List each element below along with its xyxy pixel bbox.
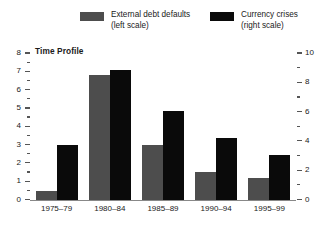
x-axis-tick-label: 1980–84 <box>83 204 136 213</box>
x-axis-tick-label: 1990–94 <box>190 204 243 213</box>
right-axis-tick <box>297 199 302 200</box>
right-axis-tick <box>297 111 302 112</box>
legend-sublabel-left-scale: (left scale) <box>111 21 190 32</box>
right-axis-tick <box>297 82 302 83</box>
left-axis-tick-label: 3 <box>17 141 21 149</box>
right-axis-tick-label: 10 <box>305 49 314 57</box>
bar-currency-crises <box>216 138 237 200</box>
legend-item-external-debt-defaults: External debt defaults (left scale) <box>80 10 190 31</box>
legend-sublabel-right-scale: (right scale) <box>241 21 298 32</box>
right-axis-tick-label: 8 <box>305 78 309 86</box>
bar-group <box>142 44 184 200</box>
x-axis-tick-label: 1995–99 <box>243 204 296 213</box>
left-axis-tick-label: 2 <box>17 159 21 167</box>
bar-group <box>195 44 237 200</box>
right-axis-tick <box>297 140 302 141</box>
bar-group <box>248 44 290 200</box>
bar-external-debt-defaults <box>36 191 57 200</box>
right-axis-tick-label: 6 <box>305 108 309 116</box>
legend-swatch-black-icon <box>210 12 234 21</box>
right-axis-minor-tick <box>297 155 300 156</box>
bar-external-debt-defaults <box>195 172 216 200</box>
bar-currency-crises <box>163 111 184 200</box>
right-axis-minor-tick <box>297 96 300 97</box>
bar-currency-crises <box>57 145 78 200</box>
legend-swatch-gray-icon <box>80 12 104 21</box>
right-axis-tick <box>297 52 302 53</box>
chart-legend: External debt defaults (left scale) Curr… <box>0 10 332 44</box>
bar-external-debt-defaults <box>142 145 163 200</box>
bar-currency-crises <box>269 155 290 200</box>
bar-group <box>89 44 131 200</box>
right-axis-minor-tick <box>297 184 300 185</box>
legend-item-currency-crises: Currency crises (right scale) <box>210 10 298 31</box>
bar-chart: Time Profile 012345678 0246810 1975–7919… <box>0 44 332 232</box>
left-axis-tick-label: 4 <box>17 122 21 130</box>
right-axis-tick-label: 2 <box>305 166 309 174</box>
right-axis-tick-label: 4 <box>305 137 309 145</box>
right-axis-minor-tick <box>297 67 300 68</box>
right-axis-tick-label: 0 <box>305 196 309 204</box>
right-axis-tick <box>297 170 302 171</box>
legend-label-external-debt-defaults: External debt defaults <box>111 10 190 19</box>
left-axis-tick-label: 1 <box>17 177 21 185</box>
bar-series-container <box>30 44 296 200</box>
bar-external-debt-defaults <box>248 178 269 200</box>
left-axis-tick-label: 5 <box>17 104 21 112</box>
bar-currency-crises <box>110 70 131 200</box>
left-axis-tick-label: 7 <box>17 67 21 75</box>
legend-label-currency-crises: Currency crises <box>241 10 298 19</box>
left-axis-tick-label: 6 <box>17 86 21 94</box>
x-axis-tick-label: 1985–89 <box>136 204 189 213</box>
left-axis-tick-label: 8 <box>17 49 21 57</box>
left-axis-tick-label: 0 <box>17 196 21 204</box>
bar-group <box>36 44 78 200</box>
right-axis-minor-tick <box>297 126 300 127</box>
bar-external-debt-defaults <box>89 75 110 200</box>
x-axis-tick-label: 1975–79 <box>30 204 83 213</box>
